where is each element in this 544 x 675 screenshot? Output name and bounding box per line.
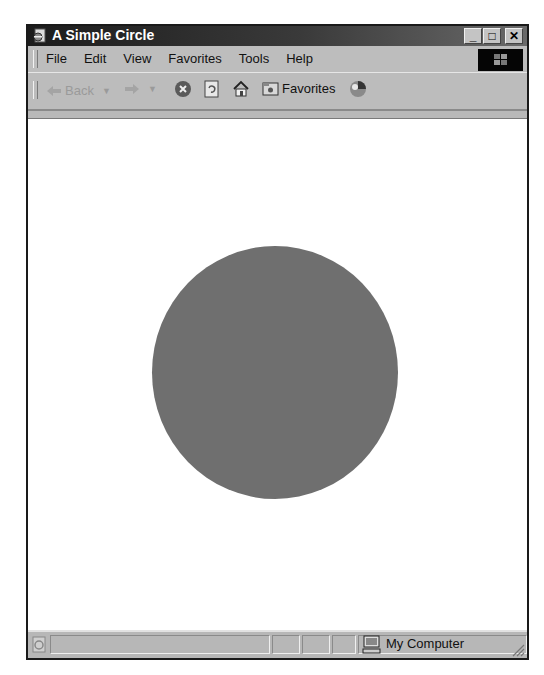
back-dropdown-icon[interactable]: ▼ — [102, 86, 111, 96]
minimize-icon: _ — [470, 30, 477, 42]
gray-circle — [152, 246, 398, 499]
close-icon: ✕ — [509, 30, 519, 42]
resize-grip-icon[interactable] — [511, 643, 525, 657]
back-label: Back — [65, 83, 94, 98]
home-icon — [232, 80, 250, 98]
standard-toolbar: Back ▼ ▼ Favorites — [28, 73, 527, 111]
maximize-icon: □ — [488, 30, 495, 42]
favorites-icon — [262, 81, 279, 96]
home-button[interactable] — [232, 80, 250, 98]
menu-tools[interactable]: Tools — [239, 51, 269, 66]
menu-bar: File Edit View Favorites Tools Help — [28, 46, 527, 73]
stop-button[interactable] — [174, 80, 192, 98]
minimize-button[interactable]: _ — [464, 28, 482, 44]
menu-view[interactable]: View — [123, 51, 151, 66]
forward-dropdown-icon[interactable]: ▼ — [148, 84, 157, 94]
maximize-button[interactable]: □ — [483, 28, 501, 44]
favorites-button[interactable]: Favorites — [262, 81, 335, 96]
window-title: A Simple Circle — [52, 27, 154, 43]
menu-grip-handle[interactable] — [33, 50, 38, 68]
close-button[interactable]: ✕ — [505, 28, 523, 44]
forward-button[interactable]: ▼ — [124, 83, 157, 95]
menu-favorites[interactable]: Favorites — [168, 51, 221, 66]
status-pane-3 — [332, 635, 356, 654]
windows-logo-icon — [494, 54, 508, 66]
status-message-pane — [50, 635, 270, 654]
windows-logo-throbber — [478, 49, 523, 71]
refresh-button[interactable] — [204, 80, 220, 98]
my-computer-icon — [362, 635, 382, 654]
status-bar: My Computer — [28, 630, 527, 658]
toolbar-grip-handle[interactable] — [33, 81, 38, 99]
stop-icon — [174, 80, 192, 98]
browser-window: A Simple Circle _ □ ✕ File Edit View Fav… — [26, 24, 529, 660]
status-pane-1 — [272, 635, 300, 654]
page-status-icon — [32, 636, 47, 653]
refresh-icon — [204, 80, 220, 98]
back-arrow-icon — [46, 85, 62, 97]
forward-arrow-icon — [124, 83, 140, 95]
menu-edit[interactable]: Edit — [84, 51, 106, 66]
security-zone-label: My Computer — [386, 636, 464, 651]
status-pane-2 — [302, 635, 330, 654]
media-icon — [349, 80, 367, 98]
ie-page-icon — [32, 28, 47, 43]
back-button[interactable]: Back ▼ — [46, 83, 111, 98]
favorites-label: Favorites — [282, 81, 335, 96]
title-bar[interactable]: A Simple Circle _ □ ✕ — [28, 26, 527, 46]
menu-file[interactable]: File — [46, 51, 67, 66]
media-button[interactable] — [349, 80, 367, 98]
menu-help[interactable]: Help — [286, 51, 313, 66]
page-content — [28, 118, 527, 631]
